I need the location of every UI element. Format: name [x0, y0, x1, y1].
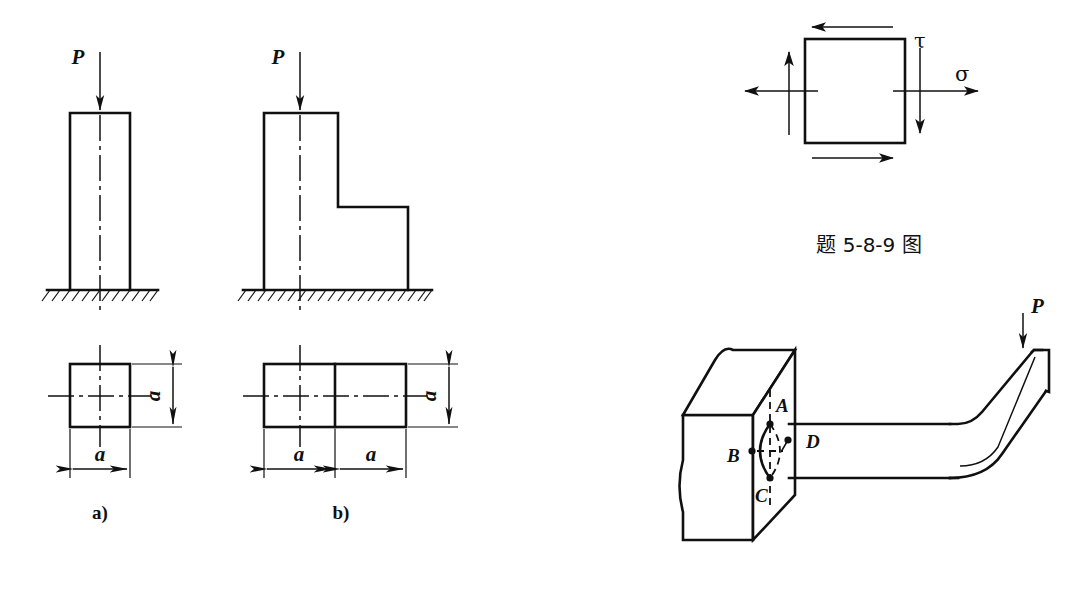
figure-sheet: P	[0, 0, 1067, 590]
engineering-figure-canvas: P	[0, 0, 1067, 590]
ground-support-b	[238, 290, 432, 301]
figure-cantilever: P A B C D	[680, 294, 1050, 540]
shear-stress-label: τ	[914, 29, 926, 53]
stress-element-square	[805, 39, 905, 143]
dimension-label-a-width: a	[95, 442, 106, 466]
dimension-label-b-width-left: a	[294, 442, 305, 466]
point-marker-B	[748, 447, 755, 454]
caption-figure-b: b)	[333, 502, 350, 524]
dimension-label-a-height: a	[141, 391, 165, 402]
dimension-label-b-width-right: a	[366, 442, 377, 466]
point-label-B: B	[726, 445, 740, 466]
figure-b-plan: a a a b)	[243, 345, 458, 524]
figure-a-plan: a a a)	[48, 345, 182, 524]
rod-body	[789, 352, 1046, 478]
load-label-a: P	[71, 45, 85, 69]
load-label-b: P	[271, 45, 285, 69]
point-marker-C	[766, 474, 773, 481]
dimension-b-width-right: a	[340, 429, 406, 478]
point-label-C: C	[755, 485, 768, 506]
column-body-b	[264, 113, 408, 290]
normal-stress-label: σ	[955, 62, 969, 86]
figure-stress-element: τ σ 题 5-8-9 图	[745, 27, 978, 257]
figure-b-elevation: P	[238, 45, 432, 310]
figure-caption-chinese: 题 5-8-9 图	[816, 233, 921, 257]
caption-figure-a: a)	[92, 502, 108, 524]
point-marker-A	[766, 420, 773, 427]
dimension-label-b-height: a	[417, 391, 441, 402]
figure-a-elevation: P	[42, 45, 158, 310]
point-label-A: A	[775, 395, 789, 416]
load-label-cantilever: P	[1030, 294, 1044, 318]
point-label-D: D	[805, 431, 820, 452]
